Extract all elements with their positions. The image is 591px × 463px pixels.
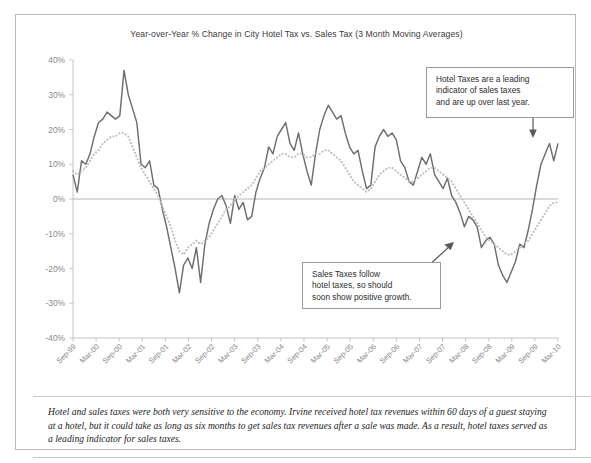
y-tick-label: 40% [48, 55, 65, 65]
callout-line: hotel taxes, so should [312, 280, 432, 291]
y-tick-label: -30% [45, 298, 65, 308]
x-tick-label: Mar-08 [447, 342, 470, 365]
x-tick-label: Sep-02 [193, 342, 216, 365]
x-tick-label: Sep-08 [470, 342, 493, 365]
x-tick-label: Mar-05 [309, 342, 332, 365]
x-tick-label: Sep-03 [239, 342, 262, 365]
x-axis: Sep-99Mar-00Sep-00Mar-01Sep-01Mar-02Sep-… [54, 338, 562, 366]
x-tick-label: Mar-02 [170, 342, 193, 365]
y-tick-label: -10% [45, 229, 65, 239]
y-tick-label: 30% [48, 90, 65, 100]
y-tick-label: 0% [53, 194, 66, 204]
x-tick-label: Mar-09 [494, 342, 517, 365]
caption-divider-top [33, 396, 591, 397]
callout-line: soon show positive growth. [312, 292, 432, 303]
y-tick-label: 20% [48, 125, 65, 135]
x-tick-label: Mar-10 [540, 342, 563, 365]
x-tick-label: Mar-06 [355, 342, 378, 365]
x-tick-label: Sep-00 [101, 342, 124, 365]
down-arrow-head-icon [529, 130, 537, 139]
x-tick-label: Sep-99 [54, 342, 77, 365]
x-tick-label: Sep-09 [516, 342, 539, 365]
x-tick-label: Mar-00 [78, 342, 101, 365]
x-tick-label: Sep-05 [332, 342, 355, 365]
x-tick-label: Sep-01 [147, 342, 170, 365]
x-tick-label: Sep-04 [285, 342, 308, 365]
y-tick-label: -20% [45, 264, 65, 274]
x-tick-label: Mar-03 [216, 342, 239, 365]
callout-line: indicator of sales taxes [436, 85, 565, 96]
chart-caption: Hotel and sales taxes were both very sen… [48, 405, 553, 446]
callout-line: Hotel Taxes are a leading [436, 74, 565, 85]
callout-line: and are up over last year. [436, 97, 565, 108]
x-tick-label: Mar-07 [401, 342, 424, 365]
y-tick-label: -40% [45, 333, 65, 343]
x-tick-label: Mar-04 [263, 342, 286, 365]
caption-divider-bottom [33, 457, 591, 458]
x-tick-label: Sep-07 [424, 342, 447, 365]
y-tick-label: 10% [48, 159, 65, 169]
x-tick-label: Mar-01 [124, 342, 147, 365]
chart-card: Year-over-Year % Change in City Hotel Ta… [15, 14, 576, 450]
sales-tax-callout: Sales Taxes follow hotel taxes, so shoul… [302, 262, 441, 309]
x-tick-label: Sep-06 [378, 342, 401, 365]
callout-line: Sales Taxes follow [312, 269, 432, 280]
up-right-arrow-head-icon [444, 242, 454, 250]
hotel-tax-callout: Hotel Taxes are a leading indicator of s… [426, 67, 574, 118]
